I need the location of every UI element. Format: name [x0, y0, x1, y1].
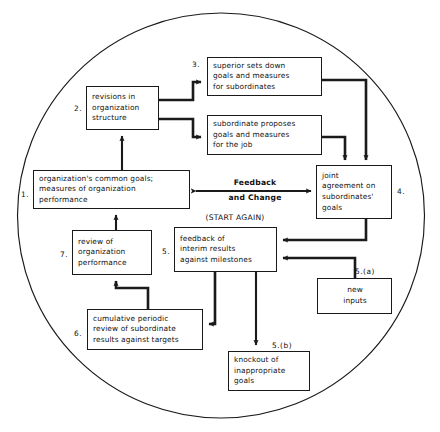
node-5-text: feedback of interim results against mile…: [180, 234, 272, 266]
node-5a-tag: 5.(a): [355, 267, 375, 276]
node-7-text: review of organization performance: [78, 237, 147, 269]
node-5b-text: knockout of inappropriate goals: [234, 355, 305, 387]
label-start-again: (START AGAIN): [190, 213, 280, 222]
node-subordinate-text: subordinate proposes goals and measures …: [213, 119, 317, 151]
diagram-canvas: organization's common goals; measures of…: [0, 0, 440, 432]
node-feedback-of-interim-results[interactable]: feedback of interim results against mile…: [174, 227, 277, 272]
label-feedback: Feedback: [215, 178, 295, 187]
node-5a-text: new inputs: [343, 285, 367, 306]
node-organization-common-goals[interactable]: organization's common goals; measures of…: [33, 170, 190, 209]
edge-subordinate-to-4: [322, 137, 345, 160]
node-new-inputs[interactable]: new inputs: [317, 278, 392, 314]
node-superior-sets-down-goals[interactable]: superior sets down goals and measures fo…: [207, 57, 322, 96]
node-5b-tag: 5.(b): [272, 341, 292, 350]
edge-2-to-subordinate: [159, 119, 201, 137]
edge-4-to-5: [283, 219, 366, 240]
node-joint-agreement-on-goals[interactable]: joint agreement on subordinates' goals: [316, 165, 392, 219]
node-5-tag: 5.: [162, 247, 170, 256]
node-subordinate-proposes-goals[interactable]: subordinate proposes goals and measures …: [207, 115, 322, 155]
edge-6-to-7: [116, 281, 148, 309]
node-review-of-organization-performance[interactable]: review of organization performance: [72, 230, 152, 275]
node-revisions-in-organization-structure[interactable]: revisions in organization structure: [86, 86, 159, 130]
label-and-change: and Change: [215, 193, 295, 202]
node-2-text: revisions in organization structure: [92, 92, 154, 124]
node-6-text: cumulative periodic review of subordinat…: [93, 314, 198, 346]
node-knockout-of-inappropriate-goals[interactable]: knockout of inappropriate goals: [228, 351, 310, 391]
node-7-tag: 7.: [60, 250, 68, 259]
node-4-text: joint agreement on subordinates' goals: [322, 171, 387, 213]
node-1-text: organization's common goals; measures of…: [39, 174, 185, 206]
node-1-tag: 1.: [21, 190, 29, 199]
edge-newinputs-to-5: [283, 258, 355, 278]
node-cumulative-periodic-review[interactable]: cumulative periodic review of subordinat…: [87, 309, 203, 350]
node-6-tag: 6.: [74, 329, 82, 338]
edge-5-to-6: [209, 272, 215, 324]
node-2-tag: 2.: [74, 104, 82, 113]
node-3-tag: 3.: [192, 60, 200, 69]
node-3-text: superior sets down goals and measures fo…: [213, 61, 317, 93]
edge-2-to-3: [159, 82, 201, 100]
node-4-tag: 4.: [397, 187, 405, 196]
